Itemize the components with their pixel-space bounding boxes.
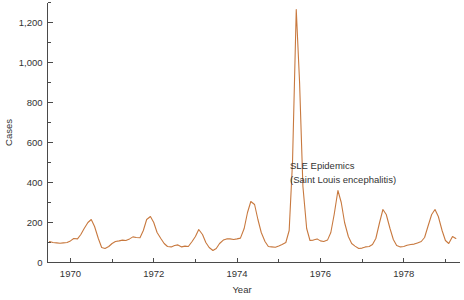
- y-tick-label: 800: [27, 97, 43, 108]
- y-tick-label: 0: [37, 257, 42, 268]
- x-tick-label: 1976: [310, 268, 331, 279]
- x-tick-label: 1974: [227, 268, 248, 279]
- y-tick-label: 1,000: [19, 57, 43, 68]
- x-tick-label: 1970: [60, 268, 81, 279]
- y-axis-title: Cases: [3, 119, 14, 146]
- y-tick-label: 1,200: [19, 17, 43, 28]
- y-tick-label: 200: [27, 217, 43, 228]
- y-tick-label: 600: [27, 137, 43, 148]
- line-chart: 02004006008001,0001,200 1970197219741976…: [0, 0, 464, 300]
- annotation-line-primary: SLE Epidemics: [290, 160, 355, 171]
- y-tick-label: 400: [27, 177, 43, 188]
- chart-container: 02004006008001,0001,200 1970197219741976…: [0, 0, 464, 300]
- chart-background: [0, 0, 464, 300]
- x-axis-title: Year: [232, 284, 251, 295]
- x-tick-label: 1972: [143, 268, 164, 279]
- x-tick-label: 1978: [393, 268, 414, 279]
- annotation-line-secondary: (Saint Louis encephalitis): [290, 174, 396, 185]
